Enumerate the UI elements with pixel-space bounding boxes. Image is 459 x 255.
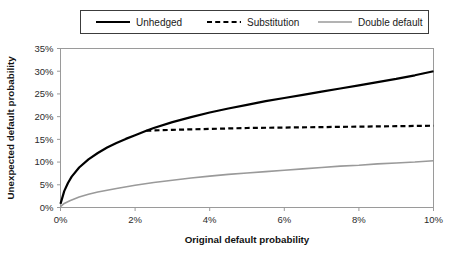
x-axis-tick-label: 8% [352, 214, 366, 225]
x-axis-tick-label: 0% [54, 214, 68, 225]
legend-label-unhedged: Unhedged [136, 17, 182, 28]
x-axis-title: Original default probability [185, 234, 310, 245]
legend-label-substitution: Substitution [247, 17, 299, 28]
y-axis-tick-label: 25% [34, 88, 54, 99]
y-axis-title: Unexpected default probability [5, 56, 16, 200]
y-axis-tick-label: 35% [34, 43, 54, 54]
y-axis-tick-label: 5% [40, 179, 54, 190]
x-axis-tick-label: 6% [277, 214, 291, 225]
chart-legend: UnhedgedSubstitutionDouble default [81, 11, 429, 34]
y-axis-tick-label: 20% [34, 111, 54, 122]
y-axis-tick-label: 0% [40, 202, 54, 213]
y-axis-tick-label: 15% [34, 134, 54, 145]
legend-label-double-default: Double default [358, 17, 423, 28]
x-axis-tick-label: 10% [424, 214, 444, 225]
unexpected-default-probability-chart: UnhedgedSubstitutionDouble default 0%5%1… [0, 0, 459, 255]
chart-container: UnhedgedSubstitutionDouble default 0%5%1… [0, 0, 459, 255]
y-axis-tick-label: 10% [34, 156, 54, 167]
x-axis-tick-label: 2% [128, 214, 142, 225]
y-axis-tick-label: 30% [34, 66, 54, 77]
x-axis-tick-label: 4% [203, 214, 217, 225]
